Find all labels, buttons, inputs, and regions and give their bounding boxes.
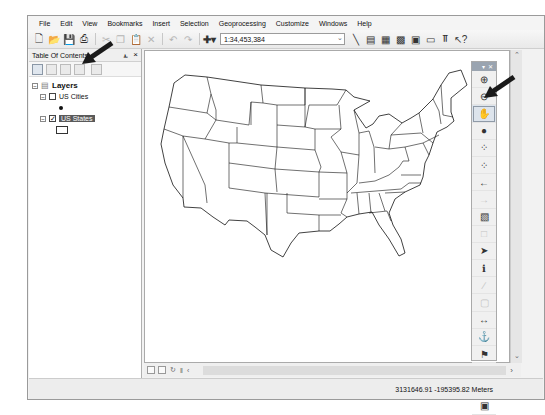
- toolbar-separator: [199, 33, 200, 45]
- new-document-icon[interactable]: 🗋: [32, 33, 45, 46]
- map-scale-value: 1:34,453,384: [224, 36, 265, 43]
- back-extent-icon[interactable]: ←: [472, 174, 496, 191]
- paste-icon[interactable]: 📋: [129, 33, 142, 46]
- delete-icon[interactable]: ✕: [144, 33, 157, 46]
- point-symbol-icon: [59, 106, 63, 110]
- add-data-icon[interactable]: ✚▾: [203, 33, 216, 46]
- list-by-drawing-order-icon[interactable]: [32, 64, 43, 75]
- select-features-icon[interactable]: ▧: [472, 209, 496, 226]
- layer-name: US Cities: [59, 93, 88, 100]
- fixed-zoom-out-icon[interactable]: ⁘: [472, 157, 496, 174]
- full-extent-icon[interactable]: ●: [472, 123, 496, 140]
- layer-tree: − ▤ Layers − US Cities − ✓ US States: [29, 77, 141, 135]
- collapse-icon[interactable]: −: [40, 116, 46, 122]
- layers-root-label: Layers: [52, 81, 78, 90]
- close-icon[interactable]: ×: [133, 50, 138, 60]
- layer-us-cities[interactable]: − US Cities: [32, 91, 141, 102]
- save-icon[interactable]: 💾: [62, 33, 75, 46]
- model-builder-icon[interactable]: ⫪: [439, 33, 452, 46]
- list-by-source-icon[interactable]: [46, 64, 57, 75]
- layout-view-icon[interactable]: [158, 366, 166, 374]
- menu-help[interactable]: Help: [352, 20, 376, 27]
- layer-name: US States: [59, 115, 95, 122]
- map-bottom-bar: ↻ ‖ ‹ ›: [144, 363, 521, 377]
- menu-file[interactable]: File: [34, 20, 55, 27]
- create-viewer-window-icon[interactable]: ▣: [472, 398, 496, 415]
- pin-icon[interactable]: ⫠: [123, 50, 128, 60]
- menu-customize[interactable]: Customize: [271, 20, 314, 27]
- chevron-down-icon[interactable]: ▾: [482, 63, 485, 70]
- redo-icon[interactable]: ↷: [181, 33, 194, 46]
- pan-icon[interactable]: ✋: [472, 105, 496, 122]
- tools-palette-header[interactable]: ▾ ✕: [472, 62, 496, 71]
- menu-view[interactable]: View: [77, 20, 102, 27]
- polygon-symbol-icon: [56, 126, 68, 134]
- layer-us-states[interactable]: − ✓ US States: [32, 113, 141, 124]
- map-display[interactable]: [144, 50, 510, 363]
- hyperlink-icon[interactable]: ∕: [472, 277, 496, 294]
- scroll-right-icon[interactable]: ›: [510, 366, 513, 375]
- layers-folder-icon: ▤: [41, 81, 49, 90]
- state-borders: [164, 77, 453, 235]
- pause-drawing-icon[interactable]: ‖: [180, 367, 183, 374]
- menu-bookmarks[interactable]: Bookmarks: [102, 20, 147, 27]
- point-symbol[interactable]: [32, 102, 141, 113]
- chevron-down-icon[interactable]: ⌄: [337, 34, 343, 42]
- layers-root[interactable]: − ▤ Layers: [32, 80, 141, 91]
- menu-edit[interactable]: Edit: [55, 20, 77, 27]
- editor-icon[interactable]: ╲: [349, 33, 362, 46]
- polygon-symbol[interactable]: [32, 124, 141, 135]
- us-outline: [161, 70, 467, 257]
- map-scale-input[interactable]: 1:34,453,384 ⌄: [220, 33, 345, 45]
- catalog-icon[interactable]: ▦: [379, 33, 392, 46]
- menu-windows[interactable]: Windows: [314, 20, 352, 27]
- toolbar-separator: [162, 33, 163, 45]
- select-elements-icon[interactable]: ➤: [472, 243, 496, 260]
- clear-selection-icon[interactable]: □: [472, 226, 496, 243]
- layer-visibility-checkbox[interactable]: [49, 93, 56, 100]
- whats-this-icon[interactable]: ↖?: [454, 33, 467, 46]
- search-icon[interactable]: ▩: [394, 33, 407, 46]
- data-view-icon[interactable]: [147, 366, 155, 374]
- table-of-contents-panel: Table Of Contents ⫠ × − ▤ Layers − US Ci…: [29, 49, 142, 381]
- list-by-visibility-icon[interactable]: [60, 64, 71, 75]
- menu-insert[interactable]: Insert: [147, 20, 175, 27]
- open-icon[interactable]: 📂: [47, 33, 60, 46]
- identify-icon[interactable]: ℹ: [472, 260, 496, 277]
- find-icon[interactable]: ⚓: [472, 329, 496, 346]
- cursor-coordinates: 3131646.91 -195395.82 Meters: [395, 386, 493, 393]
- collapse-icon[interactable]: −: [32, 83, 38, 89]
- scroll-left-icon[interactable]: ‹: [187, 367, 189, 374]
- callout-arrow-toc: [78, 40, 118, 70]
- python-icon[interactable]: ▭: [424, 33, 437, 46]
- callout-arrow-zoom-out: [480, 74, 520, 104]
- scroll-up-icon[interactable]: ⌃: [511, 51, 522, 61]
- menu-bar: File Edit View Bookmarks Insert Selectio…: [28, 16, 544, 30]
- scroll-down-icon[interactable]: ⌄: [511, 352, 522, 362]
- arcmap-window: File Edit View Bookmarks Insert Selectio…: [27, 15, 545, 400]
- menu-selection[interactable]: Selection: [175, 20, 214, 27]
- menu-geoprocessing[interactable]: Geoprocessing: [214, 20, 271, 27]
- arctoolbox-icon[interactable]: ▣: [409, 33, 422, 46]
- undo-icon[interactable]: ↶: [166, 33, 179, 46]
- collapse-icon[interactable]: −: [40, 94, 46, 100]
- refresh-icon[interactable]: ↻: [170, 366, 176, 374]
- layer-visibility-checkbox[interactable]: ✓: [49, 115, 56, 122]
- tools-palette: ▾ ✕ ⊕ ⊖ ✋ ● ⁘ ⁘ ← → ▧ □ ➤ ℹ ∕ ▢ ↔ ⚓ ⚑ XY…: [471, 61, 497, 361]
- table-of-contents-icon[interactable]: ▤: [364, 33, 377, 46]
- close-icon[interactable]: ✕: [488, 63, 493, 70]
- html-popup-icon[interactable]: ▢: [472, 294, 496, 311]
- horizontal-scrollbar[interactable]: [203, 366, 506, 375]
- find-route-icon[interactable]: ⚑: [472, 346, 496, 363]
- fixed-zoom-in-icon[interactable]: ⁘: [472, 140, 496, 157]
- forward-extent-icon[interactable]: →: [472, 191, 496, 208]
- status-bar: 3131646.91 -195395.82 Meters: [29, 378, 543, 399]
- measure-icon[interactable]: ↔: [472, 312, 496, 329]
- us-states-map: [145, 51, 511, 364]
